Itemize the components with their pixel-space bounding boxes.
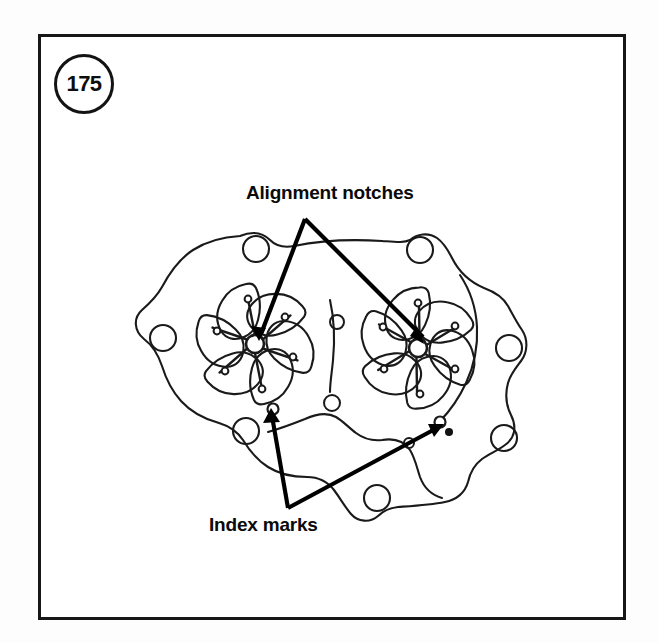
- bolt-hole-right-upper: [496, 335, 522, 361]
- index-dot: [445, 428, 453, 436]
- bolt-hole-top-left: [243, 236, 269, 262]
- slot-end: [417, 391, 424, 398]
- bolt-hole-right-lower: [491, 425, 517, 451]
- rotor-lobe: [382, 282, 433, 344]
- right-rotor-group: [348, 282, 489, 414]
- small-hole-lower-center: [324, 395, 340, 411]
- leader-line-index-left: [272, 416, 288, 508]
- slot-end: [222, 368, 229, 375]
- housing-inner-ridge-center: [330, 300, 334, 392]
- slot-end: [381, 366, 388, 373]
- housing-outline-group: [136, 233, 527, 521]
- bolt-hole-top-right: [407, 237, 433, 263]
- slot-end: [290, 354, 297, 361]
- rotor-lobe: [403, 352, 454, 414]
- slot-end: [259, 386, 266, 393]
- small-hole-upper-center: [330, 315, 344, 329]
- rotor-lobe: [184, 310, 253, 374]
- slot-end: [282, 314, 289, 321]
- rotor-lobe: [257, 314, 326, 378]
- slot-end: [245, 296, 252, 303]
- callout-label-alignment-notches: Alignment notches: [246, 182, 414, 204]
- slot-end: [452, 366, 459, 373]
- index-marks-leader-group: [272, 416, 437, 508]
- screenshot-page: 175: [0, 0, 658, 643]
- bolt-hole-left: [150, 325, 176, 351]
- slot-end: [452, 323, 459, 330]
- slot-end: [380, 324, 387, 331]
- callout-label-index-marks: Index marks: [209, 514, 318, 536]
- slot-end: [214, 328, 221, 335]
- slot-end: [415, 300, 422, 307]
- left-rotor-group: [184, 281, 326, 407]
- bolt-hole-bottom-left: [233, 418, 259, 444]
- figure-number-badge: 175: [54, 54, 114, 114]
- leader-line-index-right: [288, 428, 437, 508]
- figure-number-text: 175: [66, 73, 101, 95]
- housing-lower-inner-pocket: [268, 414, 442, 498]
- bolt-hole-bottom-center: [364, 485, 390, 511]
